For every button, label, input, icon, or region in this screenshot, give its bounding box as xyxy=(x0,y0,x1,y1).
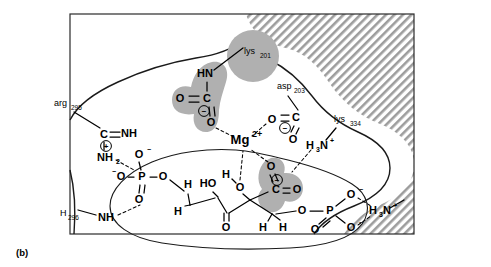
atom-o-water: O xyxy=(236,181,245,193)
residue-lys201-name: lys xyxy=(244,46,255,56)
atom-o-p2-down: O xyxy=(347,221,356,233)
atom-c-upper: C xyxy=(203,92,211,104)
atom-o-sub-top: O xyxy=(267,160,276,172)
atom-n-right: N xyxy=(383,204,391,216)
charge-minus-carbamate: − xyxy=(202,107,207,116)
atom-c-sub-carb: C xyxy=(272,183,280,195)
atom-o-upper-low: O xyxy=(207,116,216,128)
residue-asp203-number: 203 xyxy=(294,87,305,94)
residue-lys334-name: lys xyxy=(334,114,345,124)
atom-nh2-arg: NH xyxy=(97,151,113,163)
atom-c-arg: C xyxy=(100,128,108,140)
atom-o-p1-top: O xyxy=(135,148,144,160)
atom-o-p2-left: O xyxy=(298,204,307,216)
charge-plus-arg: + xyxy=(104,142,109,151)
atom-o-p1-bot: O xyxy=(135,193,144,205)
residue-his296-number: 296 xyxy=(68,214,79,221)
atom-h-c3-down: H xyxy=(174,205,182,217)
atom-nh-his: NH xyxy=(98,211,114,223)
sup-minus-p2-up: − xyxy=(359,186,363,193)
residue-lys334-number: 334 xyxy=(350,120,361,127)
sup-minus-p1-top: − xyxy=(147,146,151,153)
atom-o-asp-left: O xyxy=(268,113,277,125)
atom-h3n-right: H xyxy=(369,204,377,216)
atom-h3n-lys334: H xyxy=(306,139,314,151)
residue-lys201-number: 201 xyxy=(260,52,271,59)
atom-p1: P xyxy=(138,170,145,182)
sup-plus-lys334: + xyxy=(330,137,334,144)
atom-h-water: H xyxy=(222,168,230,180)
atom-p2: P xyxy=(326,204,333,216)
residue-his296-name: H xyxy=(60,208,67,218)
sub-2-arg: 2 xyxy=(116,158,120,165)
atom-c-asp: C xyxy=(292,111,300,123)
charge-minus-asp: − xyxy=(283,124,288,133)
atom-nh-arg: NH xyxy=(121,127,137,139)
atom-o-ketone: O xyxy=(222,221,231,233)
atom-o-p2-up: O xyxy=(347,188,356,200)
metal-label: Mg xyxy=(231,132,250,147)
atom-o-p1-left: O xyxy=(117,170,126,182)
atom-h-c1-right: H xyxy=(279,221,287,233)
residue-asp203-name: asp xyxy=(277,81,292,91)
atom-h-c3-up: H xyxy=(184,178,192,190)
atom-hn-upper: HN xyxy=(197,67,213,79)
sup-minus-p1-left: − xyxy=(112,168,116,175)
residue-arg295-name: arg xyxy=(54,98,67,108)
sup-plus-right: + xyxy=(393,202,397,209)
atom-o-p2-double: O xyxy=(311,223,320,235)
residue-arg295-number: 295 xyxy=(71,104,82,111)
atom-o-sub-right: O xyxy=(293,183,302,195)
metal-charge: 2+ xyxy=(252,129,262,139)
atom-o-upper-left: O xyxy=(176,92,185,104)
sup-minus-p2-down: − xyxy=(359,219,363,226)
atom-o-asp-low: O xyxy=(289,133,298,145)
atom-n-lys334: N xyxy=(320,139,328,151)
atom-o-p1-right: O xyxy=(159,170,168,182)
panel-label: (b) xyxy=(16,247,28,258)
atom-h-c1-left: H xyxy=(259,221,267,233)
atom-ho: HO xyxy=(200,177,217,189)
diagram-canvas: − − − + HN C O O O C O H 3 N + C NH NH 2 xyxy=(0,0,491,267)
